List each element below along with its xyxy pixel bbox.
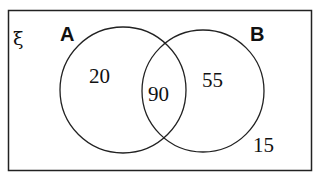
region-neither: 15 xyxy=(253,133,274,158)
region-a-only: 20 xyxy=(89,64,110,89)
universal-set-symbol: ξ xyxy=(13,27,23,49)
set-a-label: A xyxy=(60,23,74,46)
set-b-label: B xyxy=(250,23,264,46)
region-a-and-b: 90 xyxy=(148,82,169,107)
region-b-only: 55 xyxy=(202,68,223,93)
